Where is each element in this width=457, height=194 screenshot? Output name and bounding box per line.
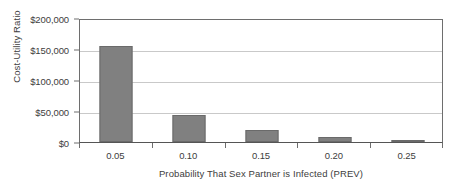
x-axis-tick-label: 0.20 xyxy=(325,150,343,161)
x-axis-tick-label: 0.15 xyxy=(252,150,270,161)
y-axis-tick-label: $50,000 xyxy=(35,107,69,118)
bar xyxy=(173,115,206,142)
bar-slot xyxy=(80,20,153,142)
y-axis-tick-label: $200,000 xyxy=(30,14,69,25)
y-axis-tick-labels: $0$50,000$100,000$150,000$200,000 xyxy=(0,0,74,194)
x-axis-tick-mark xyxy=(442,143,443,148)
y-axis-tick-label: $0 xyxy=(59,138,69,149)
bar xyxy=(245,130,278,142)
x-axis-tick-mark xyxy=(79,143,80,148)
x-axis-tick-mark xyxy=(152,143,153,148)
plot-area xyxy=(79,19,443,143)
bar-chart: Cost-Utility Ratio $0$50,000$100,000$150… xyxy=(0,0,457,194)
x-axis-title: Probability That Sex Partner is Infected… xyxy=(79,168,443,179)
bar xyxy=(318,137,351,142)
x-axis-tick-label: 0.10 xyxy=(179,150,197,161)
x-axis-tick-mark xyxy=(370,143,371,148)
bar-slot xyxy=(226,20,299,142)
bar-slot xyxy=(153,20,226,142)
x-axis-tick-label: 0.25 xyxy=(398,150,416,161)
x-axis-tick-mark xyxy=(297,143,298,148)
bar xyxy=(100,46,133,142)
x-axis-tick-mark xyxy=(225,143,226,148)
bar-slot xyxy=(298,20,371,142)
bar-slot xyxy=(371,20,444,142)
bars-layer xyxy=(80,20,442,142)
y-axis-tick-label: $100,000 xyxy=(30,76,69,87)
bar xyxy=(391,140,424,142)
y-axis-tick-label: $150,000 xyxy=(30,45,69,56)
x-axis-tick-label: 0.05 xyxy=(106,150,124,161)
